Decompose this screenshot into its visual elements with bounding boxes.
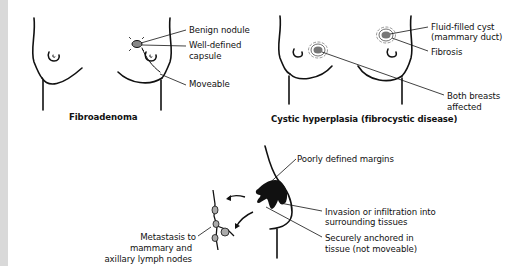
label-benign-nodule: Benign nodule <box>189 25 250 35</box>
label-metastasis-1: Metastasis to <box>110 232 196 242</box>
label-anchored-1: Securely anchored in <box>325 233 414 243</box>
tumor-mass <box>256 180 287 209</box>
label-well-defined-2: capsule <box>189 51 221 61</box>
label-both-1: Both breasts <box>447 91 500 101</box>
label-metastasis-3: axillary lymph nodes <box>86 254 192 264</box>
cyst-right <box>377 27 396 43</box>
benign-nodule <box>129 37 144 51</box>
cyst-left <box>309 42 328 58</box>
caption-fibroadenoma: Fibroadenoma <box>69 112 137 122</box>
label-anchored-2: tissue (not moveable) <box>325 244 417 254</box>
fibroadenoma-right-breast <box>118 18 171 110</box>
label-moveable: Moveable <box>189 79 230 89</box>
metastasis-arrows <box>228 196 253 227</box>
label-invasion-2: surrounding tissues <box>325 217 407 227</box>
label-well-defined-1: Well-defined <box>189 40 241 50</box>
label-fibrosis: Fibrosis <box>431 47 462 57</box>
caption-cystic-hyperplasia: Cystic hyperplasia (fibrocystic disease) <box>271 114 457 124</box>
label-invasion-1: Invasion or infiltration into <box>325 207 436 217</box>
fibroadenoma-left-breast <box>33 18 82 110</box>
label-metastasis-2: mammary and <box>96 243 192 253</box>
cystic-left-breast <box>279 16 332 104</box>
label-both-2: affected <box>447 102 482 112</box>
label-cyst-2: (mammary duct) <box>431 32 502 42</box>
label-poorly-defined: Poorly defined margins <box>297 154 394 164</box>
label-cyst-1: Fluid-filled cyst <box>431 22 494 32</box>
